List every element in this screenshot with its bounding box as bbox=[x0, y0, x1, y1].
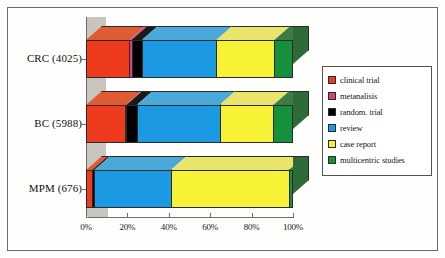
bar-segment-clinical-trial bbox=[86, 40, 129, 78]
legend-item-2[interactable]: random. trial bbox=[328, 104, 427, 120]
legend-swatch-icon bbox=[328, 140, 336, 148]
legend-item-1[interactable]: metanalisis bbox=[328, 88, 427, 104]
bar-segment-multicentric-studies bbox=[274, 40, 293, 78]
chart-legend: clinical trialmetanalisisrandom. trialre… bbox=[322, 66, 432, 176]
bar-segment-random-trial bbox=[126, 105, 136, 143]
legend-item-0[interactable]: clinical trial bbox=[328, 72, 427, 88]
x-tick-label: 60% bbox=[190, 222, 230, 232]
x-tick bbox=[86, 213, 87, 218]
legend-swatch-icon bbox=[328, 108, 336, 116]
x-axis-line bbox=[86, 217, 294, 218]
chart-figure: 0%20%40%60%80%100% CRC (4025)BC (5988)MP… bbox=[0, 0, 445, 258]
x-tick-label: 20% bbox=[107, 222, 147, 232]
legend-label: clinical trial bbox=[340, 75, 379, 85]
bar-segment-case-report bbox=[216, 40, 274, 78]
category-label-0: CRC (4025) bbox=[6, 52, 82, 64]
bar-side-face bbox=[293, 26, 309, 78]
bar-segment-top-case-report bbox=[171, 156, 305, 170]
bar-1 bbox=[86, 105, 293, 143]
legend-swatch-icon bbox=[328, 124, 336, 132]
x-tick-label: 100% bbox=[273, 222, 313, 232]
bar-segment-case-report bbox=[171, 170, 289, 208]
x-tick bbox=[169, 213, 170, 218]
legend-swatch-icon bbox=[328, 92, 336, 100]
bar-2 bbox=[86, 170, 293, 208]
legend-item-4[interactable]: case report bbox=[328, 136, 427, 152]
x-tick bbox=[127, 213, 128, 218]
legend-item-5[interactable]: multicentric studies bbox=[328, 152, 427, 168]
bar-segment-clinical-trial bbox=[86, 105, 125, 143]
legend-swatch-icon bbox=[328, 156, 336, 164]
category-label-1: BC (5988) bbox=[6, 117, 82, 129]
bar-segment-top-review bbox=[137, 91, 236, 105]
x-tick-label: 80% bbox=[232, 222, 272, 232]
bar-segment-review bbox=[94, 170, 171, 208]
x-tick-label: 0% bbox=[66, 222, 106, 232]
legend-label: multicentric studies bbox=[340, 155, 405, 165]
bar-segment-case-report bbox=[220, 105, 274, 143]
x-tick-label: 40% bbox=[149, 222, 189, 232]
legend-label: case report bbox=[340, 139, 376, 149]
bar-segment-random-trial bbox=[132, 40, 142, 78]
bar-segment-review bbox=[137, 105, 220, 143]
legend-label: random. trial bbox=[340, 107, 383, 117]
legend-label: metanalisis bbox=[340, 91, 377, 101]
x-tick bbox=[252, 213, 253, 218]
x-tick bbox=[293, 213, 294, 218]
legend-swatch-icon bbox=[328, 76, 336, 84]
bar-0 bbox=[86, 40, 293, 78]
bar-side-face bbox=[293, 91, 309, 143]
legend-item-3[interactable]: review bbox=[328, 120, 427, 136]
bar-segment-top-review bbox=[94, 156, 187, 170]
bar-segment-multicentric-studies bbox=[273, 105, 293, 143]
bar-segment-review bbox=[142, 40, 217, 78]
x-tick bbox=[210, 213, 211, 218]
bar-segment-multicentric-studies bbox=[289, 170, 293, 208]
bar-side-face bbox=[293, 156, 309, 208]
legend-label: review bbox=[340, 123, 363, 133]
category-label-2: MPM (676) bbox=[6, 182, 82, 194]
